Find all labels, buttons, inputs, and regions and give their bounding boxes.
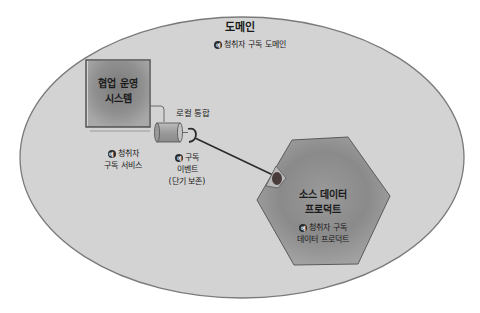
source-data-product-line2: 프로덕트 [283,203,363,218]
example-badge-icon: 예 [214,41,222,49]
caption-line1: 청취자 [118,149,139,158]
event-line1: 구독 [185,153,199,162]
example-badge-icon: 예 [175,154,183,162]
domain-title: 도메인 [200,21,280,35]
caption-line2: 구독 서비스 [88,160,158,172]
input-port-socket [272,172,282,185]
operational-system-line1: 협업 운영 [86,77,150,92]
example-badge-icon: 예 [299,224,307,232]
domain-subtitle: 예청취자 구독 도메인 [190,40,310,50]
event-line2: 이벤트 [162,164,212,176]
domain-example-text: 청취자 구독 도메인 [224,40,285,49]
local-integration-label: 로컬 통합 [168,108,218,119]
domain-boundary [20,17,464,298]
sdp-caption-line2: 데이터 프로덕트 [283,234,363,246]
operational-system-caption: 예청취자 구독 서비스 [88,148,158,172]
source-data-product-caption: 예청취자 구독 데이터 프로덕트 [283,222,363,247]
event-caption: 예구독 이벤트 (단기 보존) [162,152,212,188]
event-line3: (단기 보존) [162,176,212,188]
sdp-caption-line1: 청취자 구독 [309,223,347,232]
operational-system-title: 협업 운영 시스템 [86,77,150,106]
source-data-product-line1: 소스 데이터 [283,188,363,203]
operational-system-line2: 시스템 [86,92,150,107]
source-data-product-title: 소스 데이터 프로덕트 [283,188,363,217]
example-badge-icon: 예 [108,150,116,158]
